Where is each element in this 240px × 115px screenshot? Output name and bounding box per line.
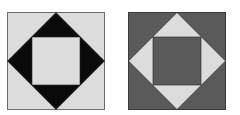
- left-tile: [8, 13, 105, 110]
- left-tile-center-square: [32, 37, 80, 85]
- right-tile-center-square: [153, 37, 201, 85]
- right-tile: [129, 13, 226, 110]
- diagram-canvas: [0, 0, 240, 115]
